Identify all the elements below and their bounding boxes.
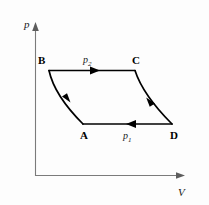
- direction-arrow-da-icon: [126, 120, 136, 128]
- pv-diagram-canvas: p V B C A: [0, 0, 209, 205]
- arrow-up-icon: [32, 22, 39, 31]
- pressure-label-p2: p2: [82, 54, 92, 68]
- pressure-labels-group: p2 p1: [82, 54, 132, 144]
- vertex-labels-group: B C A D: [38, 54, 178, 141]
- vertex-label-b: B: [38, 54, 46, 66]
- vertex-label-c: C: [132, 54, 140, 66]
- pressure-label-p2-subscript: 2: [88, 60, 92, 68]
- direction-arrows-group: [62, 66, 155, 128]
- x-axis-label: V: [178, 186, 186, 198]
- y-axis-label: p: [23, 18, 30, 30]
- pressure-label-p1: p1: [122, 130, 132, 144]
- pv-diagram-figure: p V B C A: [0, 0, 209, 205]
- vertex-label-d: D: [170, 129, 178, 141]
- pressure-label-p1-subscript: 1: [128, 136, 132, 144]
- arrow-right-icon: [176, 172, 185, 179]
- direction-arrow-bc-icon: [90, 66, 100, 74]
- segment-c-to-d: [135, 71, 172, 125]
- axes-group: p V: [23, 18, 186, 198]
- vertex-label-a: A: [80, 129, 88, 141]
